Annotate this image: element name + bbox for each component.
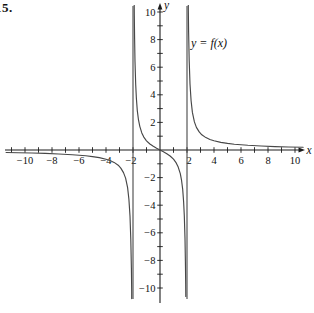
x-tick-label: 8 <box>265 155 270 166</box>
y-tick-label: −6 <box>144 227 155 238</box>
x-tick-label: 6 <box>238 155 243 166</box>
x-axis-label: x <box>306 144 313 156</box>
y-tick-label: 6 <box>150 62 155 73</box>
y-tick-label: 10 <box>145 7 156 18</box>
y-tick-label: −10 <box>139 283 155 294</box>
x-tick-label: −2 <box>125 155 136 166</box>
function-graph-figure: 15. −10−8−6−4−2246810108642−2−4−6−8−10 y… <box>0 0 314 313</box>
y-tick-label: 8 <box>150 34 155 45</box>
function-graph-svg: −10−8−6−4−2246810108642−2−4−6−8−10 y x y… <box>0 0 314 313</box>
x-tick-label: 4 <box>211 155 217 166</box>
y-tick-label: 2 <box>150 117 155 128</box>
y-tick-label: −8 <box>144 255 155 266</box>
curve-branch-right <box>188 1 303 147</box>
y-axis-arrow-icon <box>158 3 163 10</box>
x-tick-label: −10 <box>17 155 33 166</box>
x-tick-label: −6 <box>73 155 84 166</box>
curve-label: y = f(x) <box>190 36 227 50</box>
x-tick-label: 10 <box>290 155 301 166</box>
y-axis-label: y <box>163 0 170 12</box>
x-tick-label: −8 <box>46 155 57 166</box>
curve-branch-left <box>6 153 132 299</box>
y-tick-label: −4 <box>144 200 156 211</box>
y-tick-label: −2 <box>144 172 155 183</box>
x-axis-arrow-icon <box>299 148 306 153</box>
y-tick-label: 4 <box>150 89 156 100</box>
